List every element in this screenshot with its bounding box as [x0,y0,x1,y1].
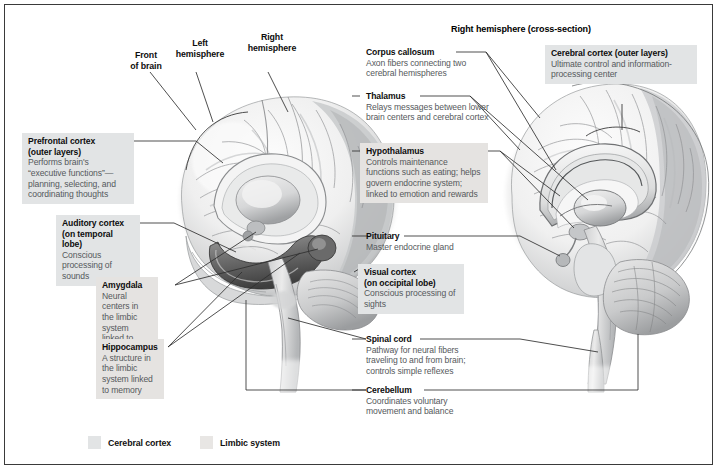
callout-thalamus-title: Thalamus [366,91,490,102]
callout-spinal-cord-body: Pathway for neural fibers traveling to a… [366,345,484,377]
callout-auditory-cortex-title: Auditory cortex [62,218,134,229]
callout-spinal-cord-title: Spinal cord [366,334,484,345]
legend-swatch-limbic-system [200,436,213,449]
legend-swatch-cerebral-cortex [88,436,101,449]
legend: Cerebral cortex Limbic system [88,436,302,449]
callout-visual-cortex-subtitle: (on occipital lobe) [364,278,458,289]
callout-spinal-cord: Spinal cord Pathway for neural fibers tr… [360,331,490,381]
callout-cerebellum: Cerebellum Coordinates voluntary movemen… [360,382,490,421]
callout-pituitary-body: Master endocrine gland [366,242,490,253]
pointer-left-hemisphere-line1: Left [162,38,238,49]
callout-cerebral-cortex: Cerebral cortex (outer layers) Ultimate … [545,45,697,84]
callout-corpus-callosum: Corpus callosum Axon fibers connecting t… [360,44,496,83]
pointer-left-hemisphere-line2: hemisphere [162,49,238,60]
pointer-right-hemisphere-line1: Right [232,32,312,43]
callout-hippocampus-body: A structure in the limbic system linked … [102,353,158,396]
callout-cerebral-cortex-body: Ultimate control and information-process… [551,59,691,80]
pointer-right-hemisphere-line2: hemisphere [232,43,312,54]
callout-corpus-callosum-title: Corpus callosum [366,47,490,58]
callout-prefrontal-cortex-title: Prefrontal cortex [28,136,128,147]
callout-cerebral-cortex-title: Cerebral cortex (outer layers) [551,48,691,59]
callout-visual-cortex-body: Conscious processing of sights [364,288,458,309]
callout-prefrontal-cortex-body: Performs brain's “executive functions”—p… [28,157,128,200]
callout-cerebellum-body: Coordinates voluntary movement and balan… [366,396,484,417]
callout-pituitary: Pituitary Master endocrine gland [360,228,496,256]
callout-hippocampus: Hippocampus A structure in the limbic sy… [96,339,164,399]
legend-label-limbic-system: Limbic system [220,438,280,448]
callout-pituitary-title: Pituitary [366,231,490,242]
callout-hypothalamus-body: Controls maintenance functions such as e… [366,157,482,200]
callout-prefrontal-cortex: Prefrontal cortex (outer layers) Perform… [22,133,134,204]
callout-corpus-callosum-body: Axon fibers connecting two cerebral hemi… [366,58,490,79]
callout-thalamus-body: Relays messages between lower brain cent… [366,102,490,123]
pointer-left-hemisphere: Left hemisphere [162,38,238,60]
callout-thalamus: Thalamus Relays messages between lower b… [360,88,496,127]
callout-hypothalamus-title: Hypothalamus [366,146,482,157]
callout-hypothalamus: Hypothalamus Controls maintenance functi… [360,143,488,203]
callout-prefrontal-cortex-subtitle: (outer layers) [28,147,128,158]
pointer-front-of-brain-line2: of brain [108,61,184,72]
callout-hippocampus-title: Hippocampus [102,342,158,353]
pointer-right-hemisphere: Right hemisphere [232,32,312,54]
section-header-right-hemisphere: Right hemisphere (cross-section) [451,24,591,34]
brain-anatomy-figure: Right hemisphere (cross-section) Front o… [0,0,718,471]
callout-visual-cortex-title: Visual cortex [364,267,458,278]
legend-label-cerebral-cortex: Cerebral cortex [108,438,171,448]
callout-cerebellum-title: Cerebellum [366,385,484,396]
legend-item-cerebral-cortex: Cerebral cortex [88,436,171,449]
legend-item-limbic-system: Limbic system [200,436,280,449]
callout-auditory-cortex: Auditory cortex (on temporal lobe) Consc… [56,215,140,286]
callout-amygdala-title: Amygdala [102,280,152,291]
callout-auditory-cortex-subtitle: (on temporal lobe) [62,229,134,250]
callout-visual-cortex: Visual cortex (on occipital lobe) Consci… [358,264,464,314]
